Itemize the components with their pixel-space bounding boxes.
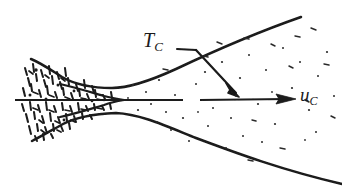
label-uc-base: u xyxy=(300,84,310,105)
label-tc-base: T xyxy=(143,29,154,51)
label-temperature-tc: TC xyxy=(143,30,163,53)
figure-container: TC uC xyxy=(0,0,342,196)
label-uc-sub: C xyxy=(310,94,318,108)
tc-leader-line xyxy=(177,49,196,50)
centreline-downstream xyxy=(200,99,288,100)
flow-diagram xyxy=(0,0,342,196)
label-tc-sub: C xyxy=(154,39,163,54)
label-velocity-uc: uC xyxy=(300,85,318,107)
